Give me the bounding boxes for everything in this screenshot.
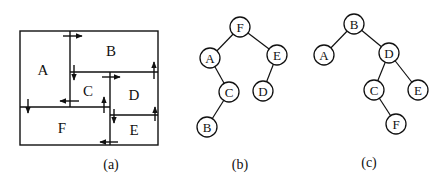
panel-a-labels: A B C D E F	[38, 43, 140, 138]
tree-c-edges	[324, 24, 418, 124]
captions: (a) (b) (c)	[103, 155, 377, 173]
node-label: D	[384, 46, 393, 61]
region-label-c: C	[83, 83, 93, 99]
node-label: E	[414, 83, 422, 98]
tree-b-edges	[207, 27, 277, 127]
caption-a: (a)	[103, 157, 119, 173]
tree-b-nodes	[197, 17, 287, 137]
node-label: C	[225, 85, 234, 100]
region-label-e: E	[129, 122, 138, 138]
figure: A B C D E F F A E C D B	[0, 0, 448, 182]
panel-c-tree: B A D C E F	[314, 14, 428, 134]
node-label: F	[392, 117, 399, 132]
node-label: C	[370, 83, 379, 98]
tree-c-nodes	[314, 14, 428, 134]
panel-b-tree: F A E C D B	[197, 17, 287, 137]
caption-c: (c)	[361, 155, 377, 171]
region-label-a: A	[38, 62, 49, 78]
node-label: D	[258, 84, 267, 99]
region-label-f: F	[58, 120, 66, 136]
node-label: E	[273, 48, 281, 63]
node-label: B	[203, 120, 212, 135]
caption-b: (b)	[232, 157, 249, 173]
region-label-d: D	[129, 87, 140, 103]
node-label: F	[236, 20, 243, 35]
node-label: A	[319, 48, 329, 63]
node-label: A	[205, 51, 215, 66]
node-label: B	[350, 17, 359, 32]
region-label-b: B	[106, 43, 116, 59]
tree-c-labels: B A D C E F	[319, 17, 422, 132]
